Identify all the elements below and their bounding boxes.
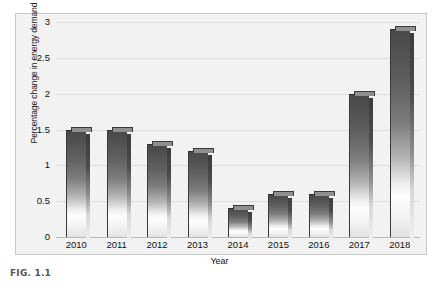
bar-2012[interactable] <box>147 144 167 237</box>
x-axis-title: Year <box>0 256 439 266</box>
y-tick-label: 0 <box>45 231 50 242</box>
bar-2018[interactable] <box>390 29 410 237</box>
x-tick-label-2010: 2010 <box>56 239 96 250</box>
bar-2014[interactable] <box>228 208 248 237</box>
figure-container: Percentage change in energy demand 00.51… <box>0 0 439 288</box>
bar-slot <box>258 22 298 237</box>
x-tick-label-2012: 2012 <box>137 239 177 250</box>
bar-2011[interactable] <box>107 130 127 238</box>
bar-side-face <box>248 212 252 240</box>
bar-slot <box>218 22 258 237</box>
y-tick-label: 1.5 <box>37 124 50 135</box>
y-tick-label: 0.5 <box>37 195 50 206</box>
bar-slot <box>56 22 96 237</box>
x-tick-label-2014: 2014 <box>218 239 258 250</box>
bar-side-face <box>329 198 333 240</box>
bar-2016[interactable] <box>309 194 329 237</box>
bar-top-face <box>273 191 294 196</box>
bar-top-face <box>233 205 254 210</box>
bar-side-face <box>410 33 414 240</box>
bar-side-face <box>288 198 292 240</box>
y-tick-label: 1 <box>45 159 50 170</box>
x-axis-tick-labels: 201020112012201320142015201620172018 <box>56 239 420 253</box>
x-tick-label-2013: 2013 <box>177 239 217 250</box>
bar-top-face <box>152 141 173 146</box>
bar-side-face <box>167 148 171 240</box>
bar-slot <box>299 22 339 237</box>
bar-top-face <box>193 148 214 153</box>
x-tick-label-2018: 2018 <box>380 239 420 250</box>
x-tick-label-2015: 2015 <box>258 239 298 250</box>
x-tick-label-2016: 2016 <box>299 239 339 250</box>
bar-2017[interactable] <box>349 94 369 237</box>
bar-2015[interactable] <box>268 194 288 237</box>
x-tick-label-2011: 2011 <box>96 239 136 250</box>
bar-side-face <box>369 98 373 240</box>
plot-area: 00.511.522.53 <box>56 22 420 237</box>
bars-layer <box>56 22 420 237</box>
bar-top-face <box>314 191 335 196</box>
figure-caption: FIG. 1.1 <box>10 268 51 278</box>
bar-2010[interactable] <box>66 130 86 238</box>
x-tick-label-2017: 2017 <box>339 239 379 250</box>
bar-top-face <box>395 26 416 31</box>
y-tick-label: 3 <box>45 16 50 27</box>
bar-side-face <box>86 134 90 241</box>
gridline <box>56 237 420 238</box>
bar-slot <box>380 22 420 237</box>
y-tick-label: 2.5 <box>37 52 50 63</box>
bar-side-face <box>127 134 131 241</box>
bar-top-face <box>112 127 133 132</box>
bar-slot <box>339 22 379 237</box>
bar-top-face <box>71 127 92 132</box>
bar-slot <box>177 22 217 237</box>
bar-2013[interactable] <box>188 151 208 237</box>
bar-slot <box>96 22 136 237</box>
chart-plot-frame: Percentage change in energy demand 00.51… <box>15 13 427 255</box>
y-tick-label: 2 <box>45 88 50 99</box>
bar-slot <box>137 22 177 237</box>
bar-side-face <box>208 155 212 240</box>
bar-top-face <box>354 91 375 96</box>
